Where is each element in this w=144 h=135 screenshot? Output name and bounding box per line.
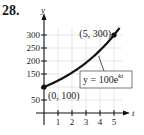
- svg-text:y = 100ekt: y = 100ekt: [83, 72, 124, 85]
- svg-text:250: 250: [27, 43, 41, 53]
- svg-text:2: 2: [70, 117, 75, 127]
- svg-text:200: 200: [27, 56, 41, 66]
- data-points: (0, 100)(5, 300): [41, 28, 116, 102]
- exponential-chart: yt 1234550150200250300 (0, 100)(5, 300) …: [0, 0, 144, 135]
- svg-text:1: 1: [56, 117, 61, 127]
- svg-text:5: 5: [112, 117, 117, 127]
- axes: yt: [36, 5, 135, 125]
- svg-text:(5, 300): (5, 300): [79, 28, 111, 40]
- svg-text:300: 300: [27, 30, 41, 40]
- svg-text:3: 3: [84, 117, 89, 127]
- svg-text:4: 4: [98, 117, 103, 127]
- svg-text:y: y: [40, 5, 45, 15]
- svg-text:t: t: [132, 108, 135, 118]
- svg-text:50: 50: [31, 95, 41, 105]
- svg-text:150: 150: [27, 69, 41, 79]
- svg-text:(0, 100): (0, 100): [48, 90, 80, 102]
